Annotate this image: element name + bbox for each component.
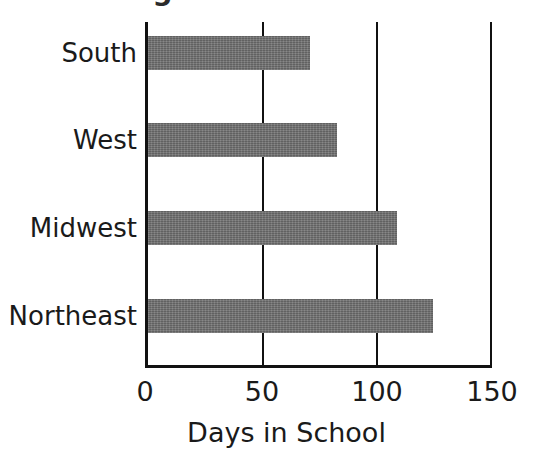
- bar-west[interactable]: [148, 123, 337, 157]
- bar-row-midwest: [148, 211, 397, 245]
- bar-south[interactable]: [148, 36, 310, 70]
- bar-row-south: [148, 36, 310, 70]
- xtick-label-150: 150: [452, 376, 532, 408]
- category-label-midwest: Midwest: [0, 211, 137, 245]
- chart-title: Region and Schools: [0, 0, 533, 8]
- bar-row-west: [148, 123, 337, 157]
- category-label-northeast: Northeast: [0, 299, 137, 333]
- x-axis-title: Days in School: [0, 416, 533, 450]
- bar-northeast[interactable]: [148, 299, 433, 333]
- category-label-south: South: [0, 36, 137, 70]
- category-label-west: West: [0, 123, 137, 157]
- bar-row-northeast: [148, 299, 433, 333]
- xtick-label-0: 0: [105, 376, 185, 408]
- xtick-label-100: 100: [337, 376, 417, 408]
- xtick-label-50: 50: [222, 376, 302, 408]
- bar-midwest[interactable]: [148, 211, 397, 245]
- plot-area: [145, 22, 492, 368]
- bar-chart-figure: Region and Schools South West Midwest No…: [0, 0, 533, 468]
